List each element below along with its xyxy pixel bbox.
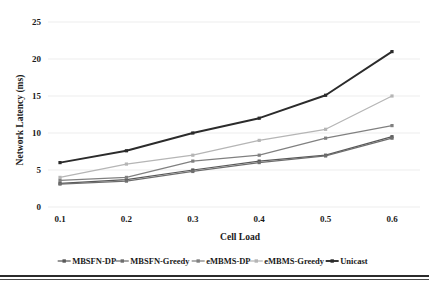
y-tick-label: 0: [37, 202, 42, 212]
legend-item-label: eMBMS-DP: [206, 256, 250, 266]
data-point-marker: [390, 94, 393, 97]
x-axis-title: Cell Load: [220, 232, 261, 242]
y-tick-label: 10: [32, 128, 42, 138]
data-point-marker: [258, 139, 261, 142]
data-point-marker: [125, 162, 128, 165]
legend-marker-swatch: [196, 259, 199, 262]
data-point-marker: [191, 170, 194, 173]
legend-marker-swatch: [121, 259, 124, 262]
data-point-marker: [324, 154, 327, 157]
legend-item-label: eMBMS-Greedy: [264, 256, 325, 266]
data-point-marker: [125, 176, 128, 179]
footer-divider-thick: [0, 275, 429, 277]
y-tick-label: 20: [32, 54, 42, 64]
footer-divider-thin: [0, 279, 429, 280]
series-line: [60, 138, 392, 184]
y-axis-tick-labels: 0510152025: [32, 17, 42, 212]
series-line: [60, 137, 392, 184]
x-tick-label: 0.4: [254, 214, 266, 224]
data-point-marker: [58, 179, 61, 182]
chart-legend: MBSFN-DPMBSFN-GreedyeMBMS-DPeMBMS-Greedy…: [58, 256, 368, 266]
data-point-marker: [125, 180, 128, 183]
y-axis-title: Network Latency (ms): [15, 75, 26, 166]
data-point-marker: [58, 182, 61, 185]
data-point-marker: [324, 128, 327, 131]
legend-marker-swatch: [62, 259, 65, 262]
legend-marker-swatch: [330, 259, 333, 262]
data-point-marker: [258, 161, 261, 164]
data-point-marker: [191, 160, 194, 163]
data-point-marker: [191, 154, 194, 157]
data-point-marker: [324, 137, 327, 140]
data-point-marker: [324, 94, 327, 97]
y-tick-label: 25: [32, 17, 42, 27]
gridlines: [48, 22, 420, 207]
data-point-marker: [390, 50, 393, 53]
data-point-marker: [191, 131, 194, 134]
data-point-marker: [390, 124, 393, 127]
y-tick-label: 5: [37, 165, 42, 175]
data-point-marker: [390, 137, 393, 140]
legend-item-label: MBSFN-DP: [72, 256, 116, 266]
data-point-marker: [258, 154, 261, 157]
series-line: [60, 52, 392, 163]
x-tick-label: 0.5: [320, 214, 332, 224]
x-tick-label: 0.3: [187, 214, 199, 224]
x-tick-label: 0.6: [386, 214, 398, 224]
legend-item-label: MBSFN-Greedy: [130, 256, 190, 266]
line-chart: 0510152025 0.10.20.30.40.50.6 Network La…: [0, 0, 429, 283]
x-axis-tick-labels: 0.10.20.30.40.50.6: [54, 214, 398, 224]
legend-item-label: Unicast: [340, 256, 368, 266]
data-point-marker: [58, 176, 61, 179]
data-point-marker: [58, 161, 61, 164]
x-tick-label: 0.1: [54, 214, 66, 224]
x-tick-label: 0.2: [121, 214, 133, 224]
data-series-group: [58, 50, 393, 186]
data-point-marker: [125, 149, 128, 152]
chart-container: 0510152025 0.10.20.30.40.50.6 Network La…: [0, 0, 429, 283]
y-tick-label: 15: [32, 91, 42, 101]
legend-marker-swatch: [255, 259, 258, 262]
data-point-marker: [258, 117, 261, 120]
